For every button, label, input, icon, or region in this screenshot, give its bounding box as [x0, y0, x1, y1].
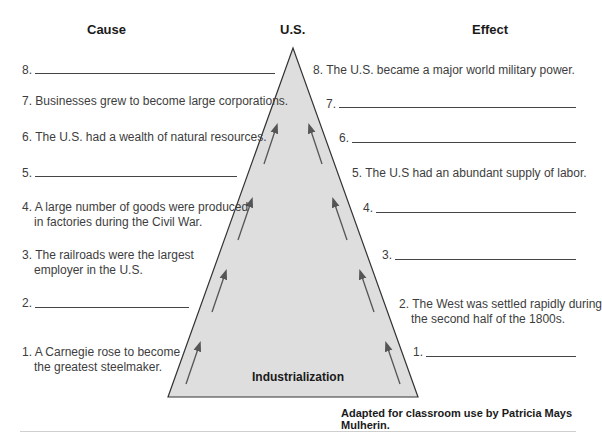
effect-2: 2. The West was settled rapidly during t… — [399, 297, 602, 327]
triangle-label: Industrialization — [252, 370, 344, 384]
cause-6: 6. The U.S. had a wealth of natural reso… — [22, 130, 267, 145]
effect-3: 3. — [382, 248, 392, 263]
cause-8: 8. — [22, 63, 32, 78]
footer-rule — [20, 431, 576, 432]
effect-5: 5. The U.S had an abundant supply of lab… — [352, 166, 587, 181]
cause-5: 5. — [22, 166, 32, 181]
cause-8-blank[interactable] — [35, 73, 275, 74]
effect-8: 8. The U.S. became a major world militar… — [313, 63, 575, 78]
effect-7-blank[interactable] — [339, 107, 576, 108]
cause-1: 1. A Carnegie rose to become the greates… — [22, 345, 180, 375]
effect-4: 4. — [363, 201, 373, 216]
effect-4-blank[interactable] — [376, 212, 576, 213]
effect-7: 7. — [326, 97, 336, 112]
credit-line: Adapted for classroom use by Patricia Ma… — [341, 407, 598, 431]
effect-1: 1. — [413, 345, 423, 360]
cause-2: 2. — [22, 296, 32, 311]
cause-5-blank[interactable] — [35, 176, 237, 177]
effect-1-blank[interactable] — [426, 356, 576, 357]
cause-2-blank[interactable] — [35, 307, 189, 308]
effect-6: 6. — [339, 131, 349, 146]
cause-3: 5. 3. The railroads were the largest emp… — [22, 248, 194, 278]
cause-7: 7. Businesses grew to become large corpo… — [22, 94, 288, 109]
effect-6-blank[interactable] — [352, 142, 576, 143]
cause-4: 4. A large number of goods were produced… — [22, 200, 248, 230]
effect-3-blank[interactable] — [395, 259, 576, 260]
